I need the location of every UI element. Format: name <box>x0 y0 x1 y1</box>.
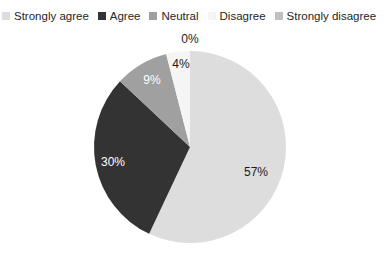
slice-label-strongly-agree: 57% <box>244 166 268 179</box>
slice-label-neutral: 9% <box>143 74 160 87</box>
pie-slice-group <box>94 51 286 243</box>
slice-label-disagree: 4% <box>172 58 189 71</box>
pie-chart-figure: Strongly agree Agree Neutral Disagree St… <box>0 0 385 256</box>
pie-plot-area: 57% 30% 9% 4% 0% <box>0 0 385 256</box>
slice-label-strongly-disagree: 0% <box>181 33 198 46</box>
slice-label-agree: 30% <box>101 156 125 169</box>
